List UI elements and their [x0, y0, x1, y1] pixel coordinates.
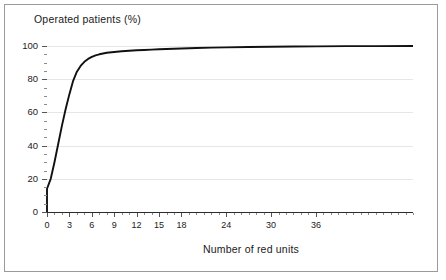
chart-title: Operated patients (%)	[34, 13, 141, 25]
x-tick-label: 0	[37, 220, 57, 230]
x-tick-label: 18	[171, 220, 191, 230]
chart-figure: Operated patients (%) 020406080100 03691…	[0, 0, 446, 280]
y-tick-label: 80	[14, 73, 38, 84]
x-axis-caption-text: Number of red units	[147, 243, 299, 255]
x-tick-label: 36	[306, 220, 326, 230]
x-axis-caption: Number of red units	[0, 243, 446, 255]
series-line	[47, 46, 413, 212]
x-tick-label: 30	[261, 220, 281, 230]
x-tick-label: 9	[104, 220, 124, 230]
x-tick-label: 6	[82, 220, 102, 230]
x-tick-label: 3	[59, 220, 79, 230]
gridlines-group	[47, 47, 413, 213]
plot-canvas	[47, 46, 413, 212]
y-tick-label: 60	[14, 106, 38, 117]
y-tick-label: 100	[14, 40, 38, 51]
y-tick-label: 20	[14, 173, 38, 184]
x-tick-label: 15	[149, 220, 169, 230]
y-tick-label: 40	[14, 140, 38, 151]
series-group	[47, 46, 413, 212]
y-tick-label: 0	[14, 206, 38, 217]
x-tick-label: 24	[216, 220, 236, 230]
plot-area	[47, 46, 413, 212]
x-tick-label: 12	[127, 220, 147, 230]
